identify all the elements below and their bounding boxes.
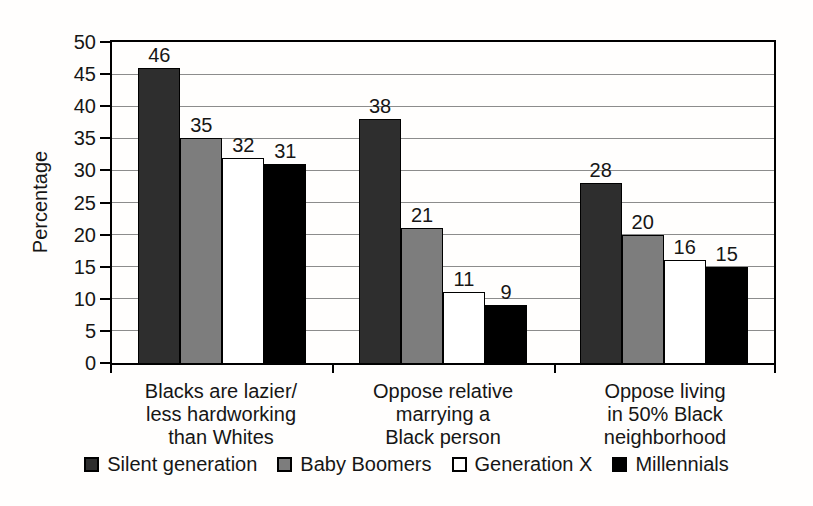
- y-tick-label: 30: [28, 159, 96, 181]
- category-label: Oppose relativemarrying aBlack person: [332, 380, 554, 449]
- bar-value-label: 46: [125, 44, 193, 67]
- bar-value-label: 31: [251, 140, 319, 163]
- category-label: Blacks are lazier/less hardworkingthan W…: [110, 380, 332, 449]
- bar-value-label: 9: [472, 281, 540, 304]
- plot-area: 46353231382111928201615: [110, 40, 776, 365]
- category-label-line: neighborhood: [554, 426, 776, 449]
- y-tick-label: 45: [28, 63, 96, 85]
- y-tick-label: 15: [28, 256, 96, 278]
- legend-label: Baby Boomers: [300, 453, 431, 476]
- category-labels: Blacks are lazier/less hardworkingthan W…: [110, 380, 776, 449]
- y-tick-mark: [100, 169, 110, 171]
- bar: 16: [664, 260, 706, 363]
- legend-swatch: [612, 457, 627, 472]
- x-tick-mark: [110, 365, 112, 373]
- legend-item: Baby Boomers: [277, 453, 431, 476]
- category-label-line: Oppose living: [554, 380, 776, 403]
- category-label-line: marrying a: [332, 403, 554, 426]
- category-label-line: less hardworking: [110, 403, 332, 426]
- y-tick-label: 40: [28, 95, 96, 117]
- bar-group: 3821119: [333, 42, 554, 363]
- x-tick-mark: [774, 365, 776, 373]
- bar-groups-container: 46353231382111928201615: [112, 42, 774, 363]
- y-tick-mark: [100, 266, 110, 268]
- y-tick-mark: [100, 73, 110, 75]
- legend-swatch: [84, 457, 99, 472]
- bar-value-label: 38: [346, 95, 414, 118]
- legend-label: Millennials: [635, 453, 728, 476]
- category-label-line: Oppose relative: [332, 380, 554, 403]
- legend-label: Generation X: [475, 453, 593, 476]
- y-tick-mark: [100, 330, 110, 332]
- bar: 28: [580, 183, 622, 363]
- bar: 32: [222, 158, 264, 363]
- legend-swatch: [452, 457, 467, 472]
- y-tick-mark: [100, 202, 110, 204]
- bar: 15: [706, 267, 748, 363]
- category-label: Oppose livingin 50% Blackneighborhood: [554, 380, 776, 449]
- bar: 21: [401, 228, 443, 363]
- category-label-line: in 50% Black: [554, 403, 776, 426]
- bar-value-label: 20: [609, 211, 677, 234]
- y-tick-mark: [100, 105, 110, 107]
- y-tick-mark: [100, 234, 110, 236]
- x-tick-mark: [332, 365, 334, 373]
- x-tick-mark: [554, 365, 556, 373]
- y-tick-mark: [100, 298, 110, 300]
- y-tick-label: 0: [28, 352, 96, 374]
- y-tick-mark: [100, 362, 110, 364]
- bar-value-label: 15: [693, 243, 761, 266]
- category-label-line: than Whites: [110, 426, 332, 449]
- y-tick-label: 50: [28, 31, 96, 53]
- legend: Silent generationBaby BoomersGeneration …: [0, 453, 813, 476]
- legend-label: Silent generation: [107, 453, 257, 476]
- bar-value-label: 28: [567, 159, 635, 182]
- bar-group: 28201615: [553, 42, 774, 363]
- bar: 31: [264, 164, 306, 363]
- legend-swatch: [277, 457, 292, 472]
- bar: 35: [180, 138, 222, 363]
- category-label-line: Blacks are lazier/: [110, 380, 332, 403]
- y-tick-label: 25: [28, 192, 96, 214]
- bar: 46: [138, 68, 180, 363]
- y-tick-label: 5: [28, 320, 96, 342]
- legend-item: Millennials: [612, 453, 728, 476]
- legend-item: Silent generation: [84, 453, 257, 476]
- y-tick-label: 20: [28, 224, 96, 246]
- y-tick-label: 10: [28, 288, 96, 310]
- bar-value-label: 21: [388, 204, 456, 227]
- bar: 38: [359, 119, 401, 363]
- bar: 9: [485, 305, 527, 363]
- y-tick-mark: [100, 137, 110, 139]
- bar-group: 46353231: [112, 42, 333, 363]
- bar-chart-figure: Percentage 46353231382111928201615 05101…: [0, 0, 813, 506]
- legend-item: Generation X: [452, 453, 593, 476]
- category-label-line: Black person: [332, 426, 554, 449]
- y-tick-label: 35: [28, 127, 96, 149]
- y-tick-mark: [100, 41, 110, 43]
